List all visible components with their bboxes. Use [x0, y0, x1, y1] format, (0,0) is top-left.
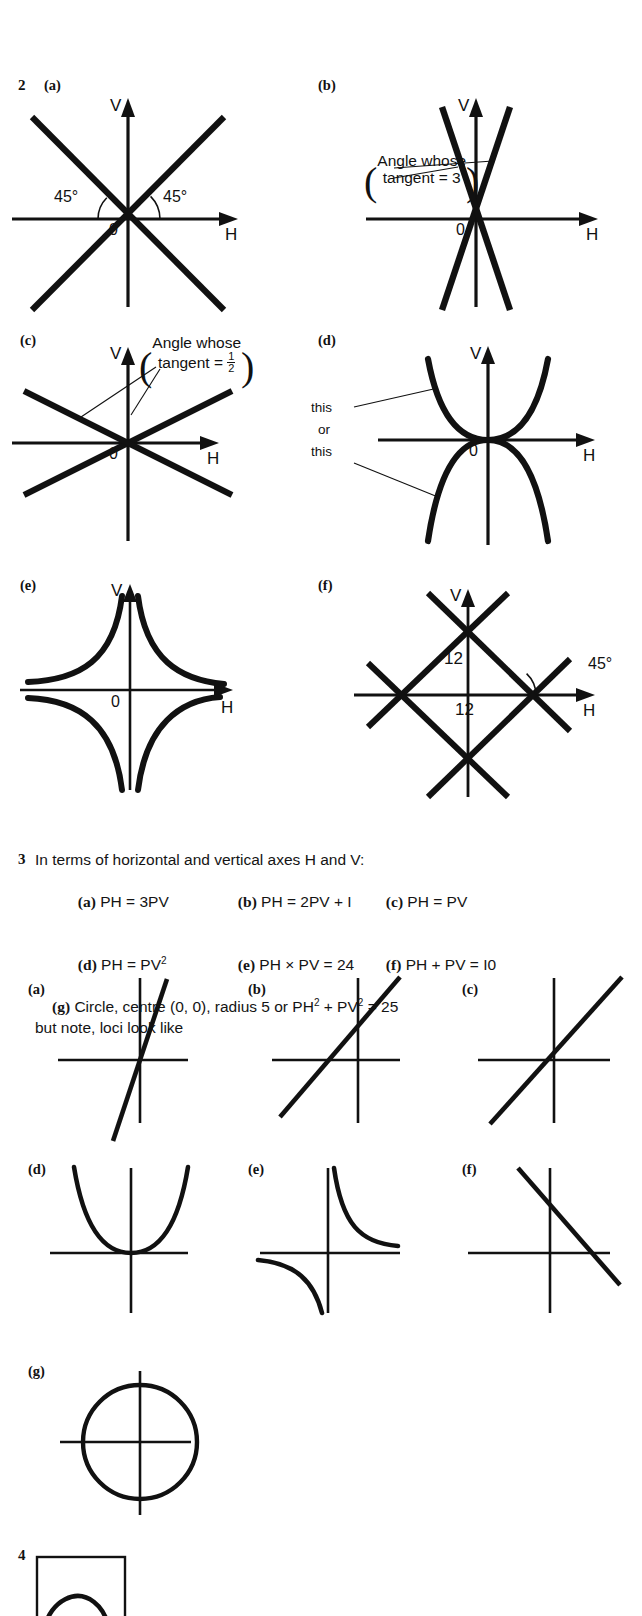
figure-2a: V H 0 45° 45°	[10, 95, 250, 310]
figure-2b-h-label: H	[586, 226, 598, 243]
callout-close-paren: )	[241, 344, 254, 389]
answer-d-superscript: 2	[161, 955, 167, 966]
answer-f-text: PH + PV = I0	[406, 956, 496, 973]
figure-loci-c	[450, 975, 638, 1125]
figure-2e-v-label: V	[111, 582, 122, 599]
figure-2f-label-12-horizontal: 12	[455, 701, 474, 718]
figure-2c-callout: (Angle whosetangent = 12)	[139, 334, 254, 374]
figure-2c-callout-line2: tangent = 12	[158, 354, 236, 371]
figure-2e-origin-label: 0	[111, 694, 120, 710]
figure-loci-e	[240, 1158, 430, 1313]
figure-loci-a	[28, 975, 208, 1125]
figure-2b-v-label: V	[458, 97, 469, 114]
item3-answer-d: (d) PH = PV2	[61, 954, 238, 975]
answer-b-text: PH = 2PV + I	[261, 893, 351, 910]
figure-2f-v-label: V	[450, 587, 461, 604]
figure-2c-origin-label: 0	[109, 446, 118, 462]
callout-open-paren: (	[139, 344, 152, 389]
figure-2d-v-label: V	[470, 345, 481, 362]
item-3-number: 3	[18, 852, 26, 867]
figure-2d-label-or: or	[318, 422, 330, 438]
answer-c-text: PH = PV	[407, 893, 467, 910]
callout-open-paren: (	[364, 159, 377, 204]
answer-d-label: (d)	[78, 956, 97, 973]
figure-2b-callout: (Angle whosetangent = 3)	[364, 152, 479, 186]
item3-intro: In terms of horizontal and vertical axes…	[35, 849, 635, 870]
figure-4	[36, 1556, 166, 1616]
item3-answer-row-1: (a) PH = 3PV(b) PH = 2PV + I(c) PH = PV	[35, 870, 635, 933]
figure-2a-h-label: H	[225, 226, 237, 243]
answer-f-label: (f)	[386, 956, 402, 973]
figure-2f-label-12-vertical: 12	[444, 650, 463, 667]
item-4-number: 4	[18, 1548, 26, 1563]
item2-panel-a-label: (a)	[44, 78, 61, 93]
answer-e-label: (e)	[238, 956, 255, 973]
figure-2c-callout-line1: Angle whose	[152, 334, 241, 351]
figure-2f: V H	[330, 585, 630, 800]
item3-answer-a: (a) PH = 3PV	[61, 891, 238, 912]
figure-loci-g	[28, 1355, 228, 1550]
figure-2b-callout-line1: Angle whose	[377, 152, 466, 169]
figure-2e-h-label: H	[221, 699, 233, 716]
figure-2a-origin-label: 0	[109, 222, 118, 238]
figure-2d: V H 0	[330, 345, 630, 550]
figure-loci-b	[240, 975, 425, 1125]
figure-2d-h-label: H	[583, 447, 595, 464]
figure-2d-label-this-1: this	[311, 400, 332, 416]
figure-2c: V H 0	[10, 345, 250, 545]
figure-2e: V H 0	[10, 580, 250, 795]
answer-b-label: (b)	[238, 893, 257, 910]
item3-answer-c: (c) PH = PV	[386, 891, 467, 912]
figure-2a-angle-right: 45°	[163, 189, 187, 205]
figure-2b-callout-line2: tangent = 3	[383, 169, 461, 186]
answer-a-text: PH = 3PV	[100, 893, 169, 910]
fraction-denominator: 2	[227, 363, 235, 374]
figure-2f-h-label: H	[583, 702, 595, 719]
figure-2c-v-label: V	[110, 345, 121, 362]
answer-c-label: (c)	[386, 893, 403, 910]
item3-answer-e: (e) PH × PV = 24	[238, 954, 386, 975]
figure-2f-angle-45: 45°	[588, 656, 612, 672]
item3-answer-b: (b) PH = 2PV + I	[238, 891, 386, 912]
callout-tangent-text: tangent =	[158, 354, 223, 371]
item2-panel-b-label: (b)	[318, 78, 336, 93]
figure-loci-d	[28, 1158, 218, 1313]
callout-close-paren: )	[466, 159, 479, 204]
figure-2c-h-label: H	[207, 450, 219, 467]
figure-loci-f	[450, 1158, 640, 1313]
figure-2a-angle-left: 45°	[54, 189, 78, 205]
figure-2d-origin-label: 0	[469, 443, 478, 459]
answer-a-label: (a)	[78, 893, 96, 910]
figure-2b-origin-label: 0	[456, 222, 465, 238]
item-2-number: 2	[18, 78, 26, 93]
callout-fraction: 12	[227, 351, 235, 374]
figure-2a-v-label: V	[110, 97, 121, 114]
figure-2d-label-this-2: this	[311, 444, 332, 460]
item3-answer-f: (f) PH + PV = I0	[386, 954, 496, 975]
answer-d-text: PH = PV	[101, 956, 161, 973]
answer-e-text: PH × PV = 24	[259, 956, 354, 973]
